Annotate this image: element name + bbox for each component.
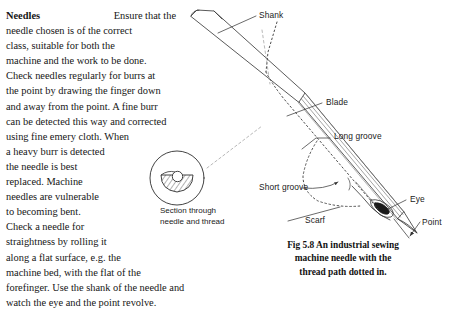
body-line-0: Needles Ensure that the: [6, 8, 176, 23]
body-line-7: can be detected this way and corrected: [6, 114, 230, 129]
body-line-1: needle chosen is of the correct: [6, 23, 176, 38]
eye-socket: [371, 200, 394, 218]
blade-upper-edge: [305, 93, 404, 212]
scarf-inner: [356, 182, 380, 210]
body-line-18: forefinger. Use the shank of the needle …: [6, 280, 244, 295]
label-blade: Blade: [326, 97, 348, 107]
body-line-19: watch the eye and the point revolve.: [6, 295, 244, 310]
label-short-groove: Short groove: [259, 182, 308, 192]
scarf-outline: [352, 186, 390, 220]
body-text: Needles Ensure that the needle chosen is…: [6, 8, 244, 310]
label-point: Point: [422, 217, 442, 227]
needle-point-tip: [398, 212, 417, 233]
thread-path: [266, 22, 378, 209]
body-line-13: to becoming bent.: [6, 204, 139, 219]
runhead: Needles: [6, 8, 40, 23]
leader-eye: [388, 200, 406, 209]
leader-point: [410, 222, 420, 236]
label-scarf: Scarf: [305, 215, 325, 225]
body-line-14: Check a needle for: [6, 219, 139, 234]
figure-caption-line2: machine needle with the: [243, 252, 443, 265]
eye-hole: [374, 203, 389, 214]
label-long-groove: Long groove: [334, 131, 382, 141]
figure-caption: Fig 5.8 An industrial sewing machine nee…: [243, 239, 443, 279]
inset-caption: Section through needle and thread: [160, 206, 255, 227]
body-line-0-text: Ensure that the: [114, 8, 176, 23]
body-line-9: a heavy burr is detected: [6, 144, 156, 159]
figure-caption-line1: Fig 5.8 An industrial sewing: [243, 239, 443, 252]
groove-shading: [299, 94, 405, 220]
body-line-12: needles are vulnerable: [6, 189, 139, 204]
short-groove-mark: [348, 178, 350, 190]
point-lower-curve: [398, 219, 417, 233]
leader-blade: [287, 103, 322, 116]
body-line-10: the needle is best: [6, 159, 139, 174]
leader-long-groove: [302, 138, 330, 149]
body-line-11: replaced. Machine: [6, 174, 139, 189]
body-line-8: using fine emery cloth. When: [6, 129, 166, 144]
long-groove-line-a: [304, 97, 404, 215]
leader-point-branch: [394, 219, 409, 238]
blade-lower-edge: [299, 102, 398, 219]
inset-caption-line1: Section through: [160, 206, 255, 217]
body-line-15: straightness by rolling it: [6, 234, 151, 249]
body-line-4: Check needles regularly for burrs at: [6, 68, 216, 83]
body-line-6: and away from the point. A fine burr: [6, 99, 222, 114]
shank-reference-dashed: [262, 30, 270, 84]
body-line-2: class, suitable for both the: [6, 38, 176, 53]
figure-caption-line3: thread path dotted in.: [243, 266, 443, 279]
inset-caption-line2: needle and thread: [160, 217, 255, 228]
label-shank: Shank: [259, 10, 283, 20]
long-groove-line-b: [302, 99, 401, 217]
body-line-2-text: class, suitable for both the: [6, 38, 115, 53]
body-line-16: along a flat surface, e.g. the: [6, 250, 166, 265]
body-line-5: the point by drawing the finger down: [6, 83, 220, 98]
body-line-17: machine bed, with the flat of the: [6, 265, 202, 280]
label-eye: Eye: [410, 194, 425, 204]
body-line-3: machine and the work to be done.: [6, 53, 198, 68]
